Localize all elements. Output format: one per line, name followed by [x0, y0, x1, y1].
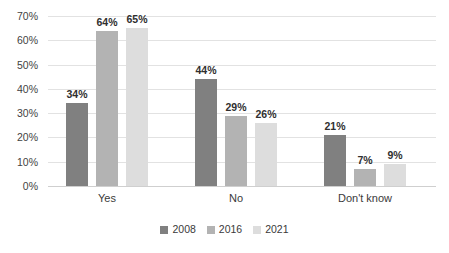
legend-swatch-icon [160, 226, 168, 234]
bar-2008-no [195, 79, 217, 186]
bar-2016-yes [96, 31, 118, 186]
legend-swatch-icon [253, 226, 261, 234]
y-tick-label: 70% [17, 11, 38, 22]
y-tick-label: 60% [17, 35, 38, 46]
x-category-label: Yes [47, 192, 167, 205]
legend-item-2008[interactable]: 2008 [160, 224, 195, 235]
y-tick-label: 50% [17, 59, 38, 70]
x-category-label: No [176, 192, 296, 205]
legend-swatch-icon [207, 226, 215, 234]
legend-item-2021[interactable]: 2021 [253, 224, 288, 235]
bar-2016-don-t-know [354, 169, 376, 186]
bar-chart: 0%10%20%30%40%50%60%70% 34%64%65%44%29%2… [0, 0, 449, 253]
bar-2021-yes [126, 28, 148, 186]
y-tick-label: 40% [17, 83, 38, 94]
bar-value-label: 64% [90, 17, 124, 28]
bar-value-label: 29% [219, 102, 253, 113]
axis-baseline [48, 186, 436, 187]
bar-group: 21%7%9% [324, 16, 406, 186]
plot-area: 34%64%65%44%29%26%21%7%9% [48, 16, 436, 186]
bar-2016-no [225, 116, 247, 186]
x-category-label: Don't know [305, 192, 425, 205]
bar-value-label: 65% [120, 14, 154, 25]
legend-label: 2008 [172, 224, 195, 235]
bar-2021-no [255, 123, 277, 186]
bar-value-label: 34% [60, 89, 94, 100]
bar-value-label: 21% [318, 121, 352, 132]
y-tick-label: 20% [17, 132, 38, 143]
bar-value-label: 7% [348, 155, 382, 166]
bar-group: 34%64%65% [66, 16, 148, 186]
bar-value-label: 26% [249, 109, 283, 120]
legend-label: 2016 [219, 224, 242, 235]
y-axis: 0%10%20%30%40%50%60%70% [0, 16, 44, 186]
bar-2008-don-t-know [324, 135, 346, 186]
bar-group: 44%29%26% [195, 16, 277, 186]
bar-2021-don-t-know [384, 164, 406, 186]
bar-value-label: 44% [189, 65, 223, 76]
chart-legend: 200820162021 [0, 224, 449, 235]
bar-value-label: 9% [378, 150, 412, 161]
y-tick-label: 30% [17, 108, 38, 119]
y-tick-label: 0% [23, 181, 38, 192]
legend-label: 2021 [265, 224, 288, 235]
bar-2008-yes [66, 103, 88, 186]
y-tick-label: 10% [17, 156, 38, 167]
legend-item-2016[interactable]: 2016 [207, 224, 242, 235]
